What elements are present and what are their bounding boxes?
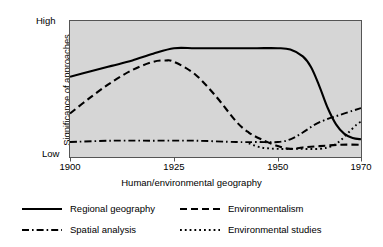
legend-label: Regional geography <box>70 203 155 214</box>
x-axis-label: Human/environmental geography <box>0 177 383 188</box>
legend-row: Spatial analysisEnvironmental studies <box>22 219 362 240</box>
x-axis-tick-label: 1950 <box>258 161 298 172</box>
x-axis-tick-label: 1925 <box>154 161 194 172</box>
legend-item-regional-geography[interactable]: Regional geography <box>22 203 180 214</box>
plot-background <box>70 21 362 158</box>
legend-swatch-dashed-icon <box>180 204 220 214</box>
x-axis-tick-label: 1900 <box>50 161 90 172</box>
chart-figure: Significance of approaches to geographic… <box>0 0 383 247</box>
legend-item-spatial-analysis[interactable]: Spatial analysis <box>22 224 180 235</box>
legend-item-environmentalism[interactable]: Environmentalism <box>180 203 304 214</box>
legend-swatch-dotted-icon <box>180 225 220 235</box>
legend-swatch-dashdot-icon <box>22 225 62 235</box>
legend-item-environmental-studies[interactable]: Environmental studies <box>180 224 321 235</box>
legend-swatch-solid-icon <box>22 204 62 214</box>
legend-label: Environmental studies <box>228 224 321 235</box>
x-axis-ticks <box>71 158 362 162</box>
x-axis-tick-label: 1970 <box>341 161 381 172</box>
chart-legend: Regional geographyEnvironmentalismSpatia… <box>22 198 362 242</box>
legend-label: Spatial analysis <box>70 224 136 235</box>
legend-row: Regional geographyEnvironmentalism <box>22 198 362 219</box>
legend-label: Environmentalism <box>228 203 304 214</box>
